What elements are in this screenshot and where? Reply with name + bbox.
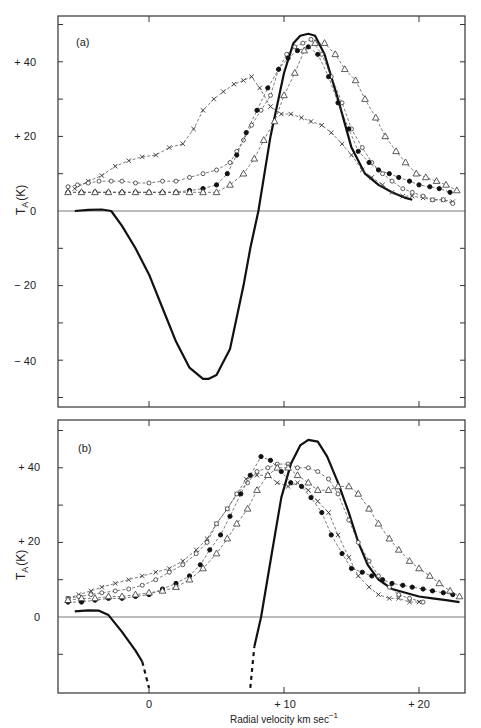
filled-circle-marker: [430, 589, 434, 593]
xlabel-text: Radial velocity km sec: [230, 714, 329, 725]
triangle-marker: [244, 505, 251, 511]
series-open-triangle: [65, 40, 460, 195]
open-circle-marker: [235, 492, 239, 496]
xlabel-exponent: −1: [329, 711, 339, 720]
open-circle-marker: [86, 181, 90, 185]
filled-circle-marker: [421, 587, 425, 591]
open-circle-marker: [228, 161, 232, 165]
open-circle-marker: [188, 175, 192, 179]
panel-b-series: [65, 440, 463, 688]
filled-circle-marker: [235, 153, 239, 157]
open-circle-marker: [127, 587, 131, 591]
filled-circle-marker: [401, 583, 405, 587]
triangle-marker: [332, 51, 339, 57]
filled-circle-marker: [309, 496, 313, 500]
panel-a-ticks: [58, 16, 465, 407]
triangle-marker: [271, 118, 278, 124]
filled-circle-marker: [286, 56, 290, 60]
open-circle-marker: [410, 190, 414, 194]
open-circle-marker: [154, 578, 158, 582]
series-filled-circle: [66, 455, 455, 605]
open-circle-marker: [367, 559, 371, 563]
open-circle-marker: [259, 108, 263, 112]
series-connector-line: [68, 475, 419, 602]
triangle-marker: [382, 133, 389, 139]
b-ytick-label-0: 0: [34, 611, 40, 623]
open-circle-marker: [120, 179, 124, 183]
panel-a-ylabel: TA(K): [14, 185, 30, 215]
triangle-marker: [213, 189, 220, 195]
svg-text:TA(K): TA(K): [14, 550, 30, 580]
dashed-extension-line: [250, 647, 254, 688]
panel-b-frame: [58, 420, 465, 693]
triangle-marker: [335, 483, 342, 489]
open-circle-marker: [113, 589, 117, 593]
panel-a: (a) + 40 + 20 0 − 20 − 40 TA(K): [14, 16, 465, 407]
open-circle-marker: [306, 466, 310, 470]
series-connector-line: [68, 43, 457, 192]
chart-canvas: (a) + 40 + 20 0 − 20 − 40 TA(K) (b) + 40…: [0, 0, 481, 728]
filled-circle-marker: [390, 581, 394, 585]
triangle-marker: [454, 187, 461, 193]
filled-circle-marker: [370, 574, 374, 578]
open-circle-marker: [167, 570, 171, 574]
open-circle-marker: [215, 522, 219, 526]
triangle-marker: [373, 114, 380, 120]
series-cross: [66, 473, 421, 604]
triangle-marker: [314, 487, 321, 493]
triangle-marker: [393, 148, 400, 154]
open-circle-marker: [390, 179, 394, 183]
series-connector-line: [68, 464, 423, 602]
ylabel-sub: A: [20, 567, 30, 573]
triangle-marker: [294, 472, 301, 478]
open-circle-marker: [215, 168, 219, 172]
open-circle-marker: [225, 507, 229, 511]
series-filled-circle: [66, 45, 452, 195]
filled-circle-marker: [320, 510, 324, 514]
open-circle-marker: [97, 179, 101, 183]
panel-a-label: (a): [76, 36, 89, 48]
triangle-marker: [305, 479, 312, 485]
triangle-marker: [366, 505, 373, 511]
filled-circle-marker: [347, 127, 351, 131]
triangle-marker: [436, 580, 443, 586]
filled-circle-marker: [295, 49, 299, 53]
open-circle-marker: [431, 198, 435, 202]
open-circle-marker: [401, 187, 405, 191]
triangle-marker: [260, 137, 267, 143]
filled-circle-marker: [289, 481, 293, 485]
panel-b-ticks: [58, 420, 465, 693]
open-circle-marker: [194, 552, 198, 556]
filled-circle-marker: [244, 131, 248, 135]
svg-text:TA(K): TA(K): [14, 185, 30, 215]
open-circle-marker: [381, 172, 385, 176]
open-circle-marker: [441, 198, 445, 202]
panel-b-label: (b): [78, 442, 91, 454]
panel-a-series: [65, 34, 460, 379]
open-circle-marker: [408, 596, 412, 600]
filled-circle-marker: [228, 514, 232, 518]
filled-circle-marker: [268, 458, 272, 462]
ylabel-unit: (K): [14, 185, 28, 201]
filled-circle-marker: [448, 190, 452, 194]
open-circle-marker: [250, 123, 254, 127]
filled-circle-marker: [218, 533, 222, 537]
filled-circle-marker: [380, 578, 384, 582]
b-ytick-label-40: + 40: [18, 461, 40, 473]
panel-b: (b) + 40 + 20 0 TA(K) 0 + 10 + 20 Radial…: [14, 420, 465, 725]
panel-a-frame: [58, 16, 465, 407]
open-circle-marker: [174, 179, 178, 183]
series-open-circle: [66, 462, 425, 604]
triangle-marker: [413, 170, 420, 176]
series-solid: [75, 610, 149, 688]
b-xtick-label-20: + 20: [408, 698, 430, 710]
triangle-marker: [227, 181, 234, 187]
ylabel-sub: A: [20, 202, 30, 208]
filled-circle-marker: [255, 108, 259, 112]
series-open-triangle: [65, 464, 463, 602]
open-circle-marker: [296, 466, 300, 470]
filled-circle-marker: [376, 168, 380, 172]
open-circle-marker: [377, 574, 381, 578]
series-solid-rise: [250, 440, 459, 688]
dashed-extension-line: [142, 662, 149, 688]
